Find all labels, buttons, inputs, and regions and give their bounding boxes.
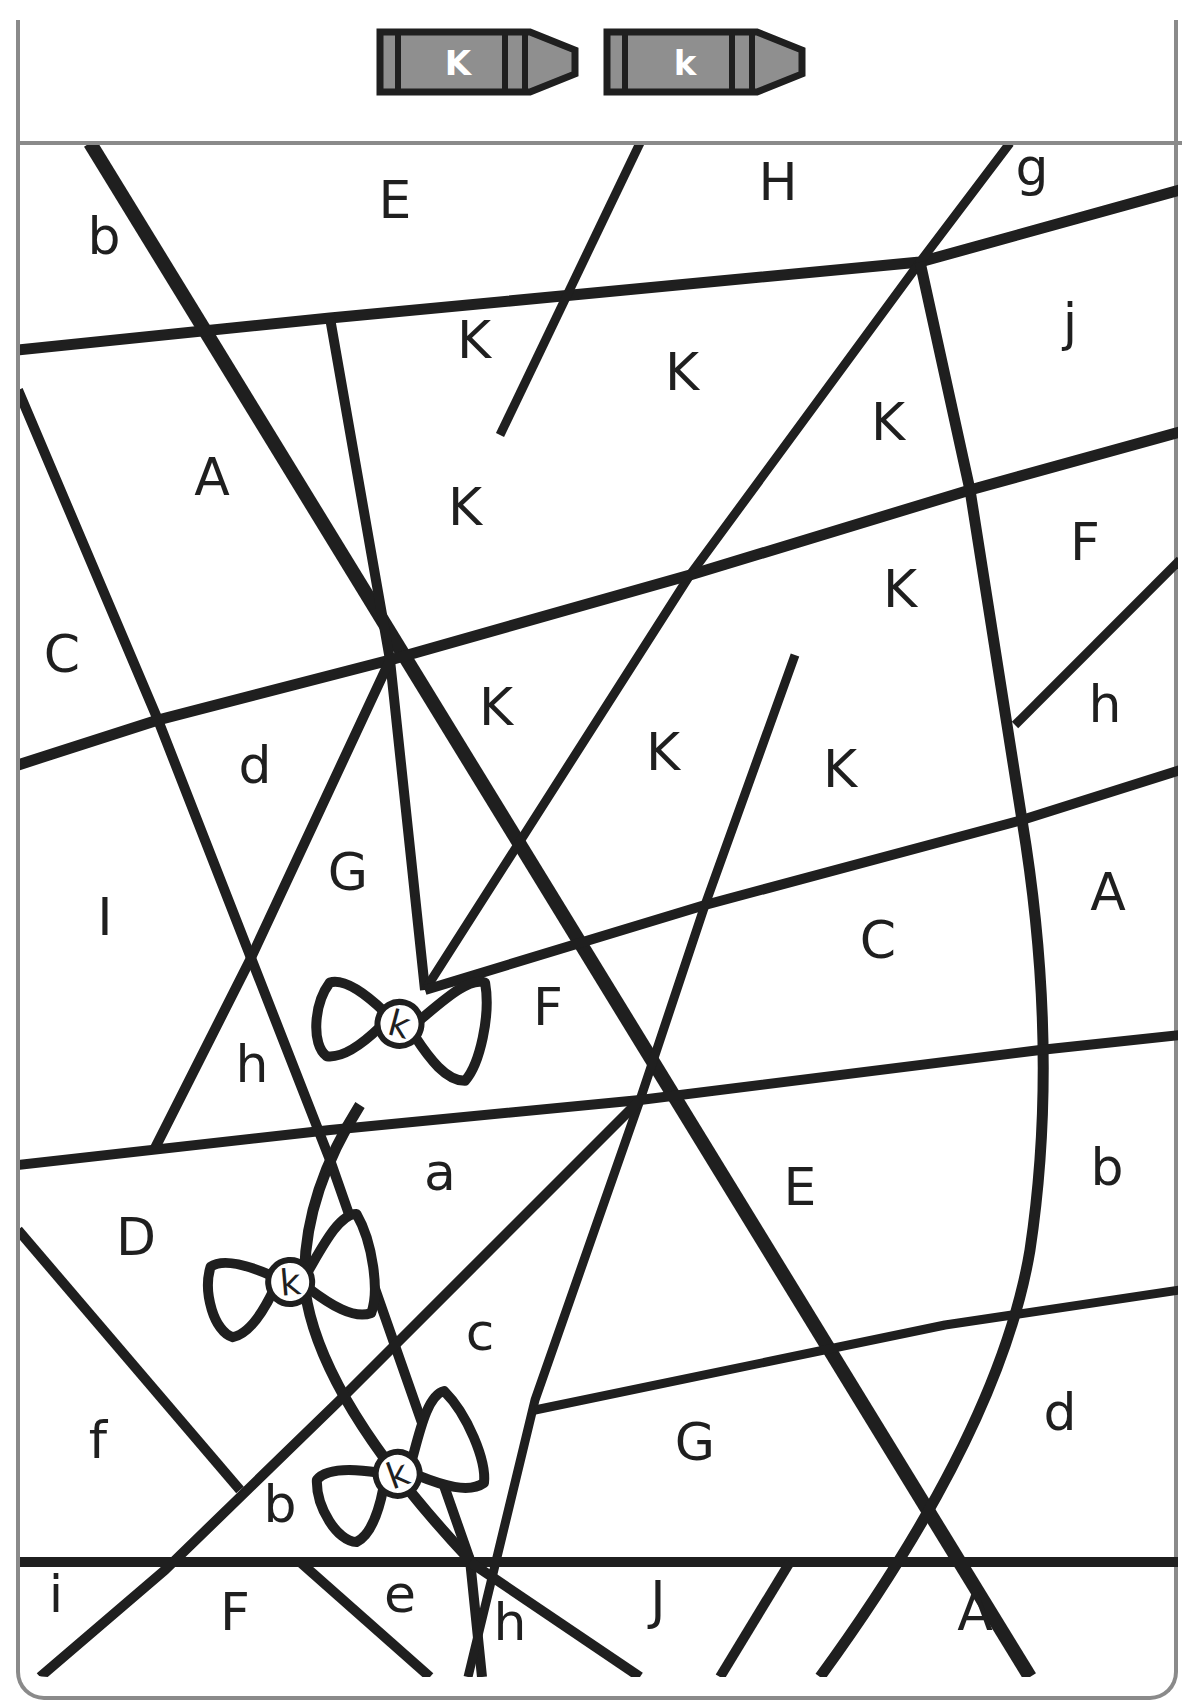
region-letter-b[interactable]: b (1090, 1137, 1123, 1197)
region-letter-h[interactable]: h (236, 1034, 269, 1094)
region-letter-E[interactable]: E (379, 170, 412, 230)
region-letter-A[interactable]: A (1090, 862, 1126, 922)
region-letter-b[interactable]: b (87, 206, 120, 266)
bow-icon[interactable]: k (307, 943, 497, 1094)
region-letter-i[interactable]: i (49, 1564, 63, 1624)
divider-line (155, 660, 390, 1148)
region-letter-f[interactable]: f (89, 1410, 109, 1470)
region-letter-d[interactable]: d (1043, 1382, 1076, 1442)
region-letter-c[interactable]: c (466, 1302, 495, 1362)
region-letter-K[interactable]: K (883, 559, 919, 619)
region-letter-F[interactable]: F (1070, 512, 1100, 572)
region-letter-j[interactable]: j (1062, 292, 1077, 352)
crayon-legend: Kk (380, 32, 802, 92)
region-letter-A[interactable]: A (194, 447, 230, 507)
region-letter-F[interactable]: F (533, 977, 563, 1037)
region-letter-H[interactable]: H (758, 152, 797, 212)
region-letter-d[interactable]: d (238, 735, 271, 795)
region-letter-b[interactable]: b (263, 1474, 296, 1534)
region-letter-h[interactable]: h (1089, 674, 1122, 734)
divider-line (720, 1562, 790, 1677)
crayon-letter: K (445, 43, 473, 83)
crayon-uppercase: K (380, 32, 575, 92)
region-letter-K[interactable]: K (457, 310, 493, 370)
region-letter-a[interactable]: a (424, 1142, 456, 1202)
region-letter-I[interactable]: I (97, 887, 112, 947)
crayon-lowercase: k (607, 32, 802, 92)
region-letter-K[interactable]: K (871, 392, 907, 452)
region-letter-K[interactable]: K (823, 739, 859, 799)
region-letter-G[interactable]: G (328, 842, 368, 902)
divider-line (18, 190, 1180, 350)
divider-line (468, 655, 795, 1677)
region-letter-A[interactable]: A (957, 1582, 993, 1642)
region-labels: bEHgjKKKAKFKChKdKKGAICFhabEDcdGfbiFehJA (44, 137, 1126, 1652)
region-letter-h[interactable]: h (494, 1592, 527, 1652)
region-dividers (18, 143, 1180, 1677)
region-letter-K[interactable]: K (479, 677, 515, 737)
crayon-letter: k (674, 43, 698, 83)
region-letter-E[interactable]: E (784, 1157, 817, 1217)
region-letter-C[interactable]: C (44, 624, 80, 684)
region-letter-J[interactable]: J (647, 1570, 665, 1630)
region-letter-e[interactable]: e (384, 1564, 416, 1624)
region-letter-K[interactable]: K (646, 722, 682, 782)
region-letter-C[interactable]: C (860, 910, 896, 970)
region-letter-F[interactable]: F (220, 1582, 250, 1642)
bow-icon[interactable]: k (203, 1213, 379, 1339)
region-letter-G[interactable]: G (675, 1412, 715, 1472)
region-letter-D[interactable]: D (116, 1207, 156, 1267)
region-letter-K[interactable]: K (665, 342, 701, 402)
bow-letter: k (278, 1261, 302, 1304)
region-letter-K[interactable]: K (448, 477, 484, 537)
region-letter-g[interactable]: g (1015, 137, 1048, 197)
